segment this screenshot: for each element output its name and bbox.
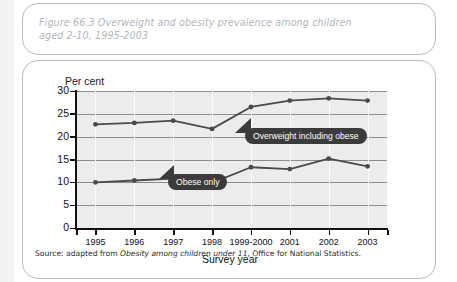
x-axis-tick-label: 1999-2000 — [229, 237, 272, 247]
data-point — [326, 96, 331, 101]
y-axis-tick-mark — [70, 205, 75, 207]
x-axis-tick-label: 2002 — [319, 237, 339, 247]
series-layer — [23, 61, 437, 280]
x-axis-tick-mark — [76, 230, 78, 235]
x-axis-tick-label: 1997 — [163, 237, 183, 247]
y-axis-tick-mark — [70, 228, 75, 230]
data-point — [132, 121, 137, 126]
x-axis-tick-mark — [368, 230, 370, 235]
x-axis-tick-mark — [329, 230, 331, 235]
data-point — [287, 98, 292, 103]
data-point — [171, 118, 176, 123]
line-chart: Per cent 051015202530 Overweight includi… — [23, 61, 437, 280]
x-axis-tick-mark — [212, 230, 214, 235]
data-point — [249, 105, 254, 110]
y-axis-tick-mark — [70, 159, 75, 161]
data-point — [249, 165, 254, 170]
data-point — [132, 178, 137, 183]
figure-title-card: Figure 66.3 Overweight and obesity preva… — [22, 3, 436, 55]
x-axis-tick-mark — [134, 230, 136, 235]
data-point — [210, 127, 215, 132]
source-suffix: , Office for National Statistics. — [248, 249, 361, 258]
series-label-overweight: Overweight including obese — [245, 128, 367, 144]
x-axis-tick-label: 2001 — [280, 237, 300, 247]
series-label-obese: Obese only — [168, 174, 227, 190]
y-axis-tick-mark — [70, 91, 75, 93]
x-axis-tick-mark — [173, 230, 175, 235]
data-point — [365, 164, 370, 169]
figure-source: Source: adapted from Obesity among child… — [35, 249, 361, 258]
x-axis-tick-label: 1996 — [124, 237, 144, 247]
x-axis-tick-mark — [95, 230, 97, 235]
data-point — [365, 98, 370, 103]
source-title: Obesity among children under 11 — [120, 249, 248, 258]
data-point — [287, 167, 292, 172]
data-point — [326, 156, 331, 161]
figure-title: Figure 66.3 Overweight and obesity preva… — [39, 16, 369, 42]
y-axis-tick-mark — [70, 182, 75, 184]
data-point — [93, 180, 98, 185]
x-axis-tick-mark — [290, 230, 292, 235]
x-axis-tick-label: 1998 — [202, 237, 222, 247]
source-prefix: Source: adapted from — [35, 249, 120, 258]
x-axis-tick-label: 1995 — [85, 237, 105, 247]
x-axis-tick-mark — [251, 230, 253, 235]
x-axis-tick-label: 2003 — [358, 237, 378, 247]
y-axis-tick-mark — [70, 136, 75, 138]
x-axis-tick-mark — [387, 230, 389, 235]
figure-card: Per cent 051015202530 Overweight includi… — [22, 60, 436, 279]
y-axis-tick-mark — [70, 113, 75, 115]
data-point — [93, 122, 98, 127]
